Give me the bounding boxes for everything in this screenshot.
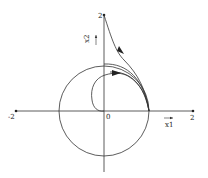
arrow-icon xyxy=(170,117,173,119)
trajectory-spiral xyxy=(92,73,149,111)
arrow-icon xyxy=(95,35,97,38)
arrow-icon xyxy=(112,70,121,76)
x2-axis-label: x2 xyxy=(83,35,91,43)
y-max-label: 2 xyxy=(98,12,102,20)
trajectory-from-circle-top xyxy=(104,64,149,111)
x1-axis-label: x1 xyxy=(165,121,173,129)
x-axis-max-point xyxy=(192,110,195,113)
x-axis-min-point xyxy=(15,110,18,113)
phase-portrait-diagram: -2 2 2 0 x1 x2 xyxy=(0,0,208,178)
x-max-label: 2 xyxy=(190,114,194,122)
origin-label: 0 xyxy=(106,113,110,121)
x-min-label: -2 xyxy=(8,113,15,121)
trajectory-from-top xyxy=(104,15,149,111)
